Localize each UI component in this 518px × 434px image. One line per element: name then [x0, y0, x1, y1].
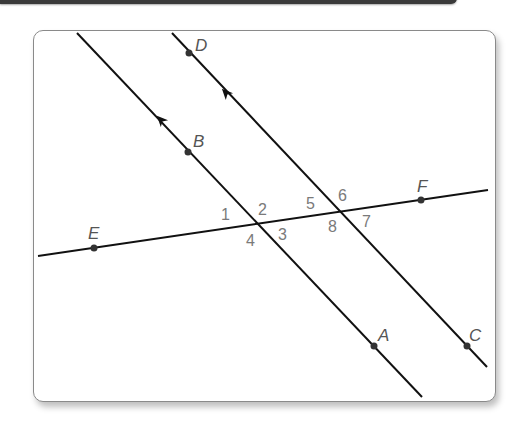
point-label-C: C [469, 326, 482, 345]
line-DC [172, 33, 487, 367]
point-label-D: D [195, 36, 207, 55]
point-label-B: B [193, 132, 204, 151]
angle-label-8: 8 [328, 218, 337, 235]
angle-label-6: 6 [338, 187, 347, 204]
point-label-F: F [417, 177, 429, 196]
angle-label-7: 7 [362, 213, 371, 230]
point-label-E: E [88, 224, 100, 243]
angle-label-3: 3 [278, 226, 287, 243]
point-B [185, 149, 192, 156]
point-E [91, 245, 98, 252]
point-A [371, 343, 378, 350]
point-D [186, 50, 193, 57]
angle-label-1: 1 [221, 206, 230, 223]
angle-label-2: 2 [258, 201, 267, 218]
point-label-A: A [377, 326, 389, 345]
parallel-lines-diagram: D B E F A C 1 2 3 4 5 6 7 8 [0, 0, 518, 434]
angle-label-5: 5 [306, 195, 315, 212]
point-F [418, 197, 425, 204]
angle-label-4: 4 [246, 232, 255, 249]
parallel-arrow-icon [218, 85, 233, 100]
